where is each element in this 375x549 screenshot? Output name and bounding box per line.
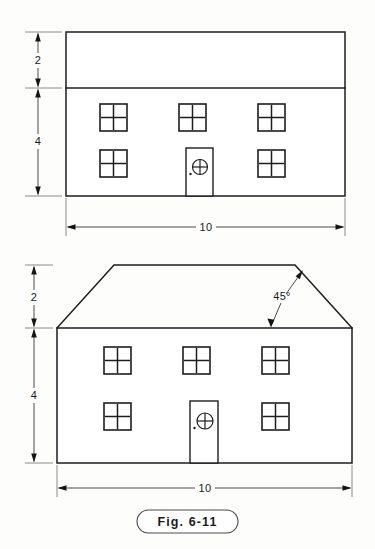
dimension-overall-width-top: 10 [66, 198, 345, 236]
lower-window-right-top [258, 150, 285, 177]
dimension-label-wall-height-top: 4 [35, 135, 42, 147]
dimension-roof-height-top: 2 [25, 32, 62, 88]
dimension-label-roof-height-bottom: 2 [31, 291, 38, 303]
door-knob-icon-bottom [193, 427, 195, 429]
upper-window-left-top [100, 104, 127, 131]
lower-window-right-bottom [262, 403, 289, 430]
dimension-overall-width-bottom: 10 [57, 465, 352, 497]
figure-caption-text: Fig. 6-11 [158, 515, 218, 529]
upper-window-right-bottom [262, 347, 289, 374]
dimension-label-wall-height-bottom: 4 [31, 389, 38, 401]
hip-roof-outline [57, 265, 352, 328]
dimension-label-roof-height-top: 2 [35, 54, 42, 66]
door-knob-icon [189, 173, 191, 175]
angle-label-45: 45° [273, 290, 291, 302]
dimension-wall-height-top: 4 [25, 89, 62, 197]
upper-window-center-bottom [183, 347, 210, 374]
figure-caption: Fig. 6-11 [137, 510, 238, 533]
dimension-label-overall-width-top: 10 [199, 221, 212, 233]
upper-window-left-bottom [104, 347, 131, 374]
dimension-wall-height-bottom: 4 [25, 329, 53, 464]
technical-drawing-canvas: 2 4 10 [0, 0, 375, 549]
door-bottom [190, 401, 218, 463]
lower-window-left-bottom [104, 403, 131, 430]
lower-window-left-top [100, 150, 127, 177]
view-flat-roof-elevation: 2 4 10 [25, 32, 345, 236]
view-hip-roof-elevation: 45° 2 4 [25, 265, 352, 497]
dimension-roof-height-bottom: 2 [25, 265, 53, 328]
upper-window-right-top [258, 104, 285, 131]
upper-window-center-top [179, 104, 206, 131]
door-top [186, 148, 213, 196]
dimension-label-overall-width-bottom: 10 [198, 482, 211, 494]
annotation-roof-angle: 45° [267, 270, 303, 328]
figure-sheet: 2 4 10 [0, 0, 375, 549]
